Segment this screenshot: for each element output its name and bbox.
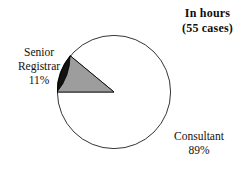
pie-label-consultant: Consultant 89% xyxy=(160,129,238,157)
chart-title-line-1: In hours xyxy=(182,6,233,21)
chart-title-subtitle: (55 cases) xyxy=(182,21,233,36)
pie-label-senior-registrar: Senior Registrar 11% xyxy=(2,45,76,87)
chart-title: In hours (55 cases) xyxy=(182,6,233,36)
senior-registrar-value: 11% xyxy=(2,73,76,87)
pie-chart-figure: In hours (55 cases) Senior Registrar 11%… xyxy=(0,0,241,175)
senior-registrar-label-line-1: Senior xyxy=(2,45,76,59)
senior-registrar-label-line-2: Registrar xyxy=(2,59,76,73)
consultant-value: 89% xyxy=(160,143,238,157)
consultant-label-line-1: Consultant xyxy=(160,129,238,143)
